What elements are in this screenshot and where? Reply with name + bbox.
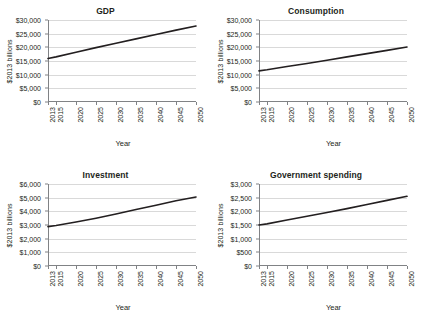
x-tick-mark xyxy=(267,102,268,105)
plot-area xyxy=(48,184,196,266)
chart-panel-gdp: GDP $2013 billions $30,000$25,000$20,000… xyxy=(0,0,211,164)
x-tick-mark xyxy=(156,266,157,269)
x-tick-label: 2050 xyxy=(408,271,415,287)
x-tick-label: 2050 xyxy=(408,107,415,123)
x-tick-mark xyxy=(307,266,308,269)
x-tick-mark xyxy=(387,266,388,269)
x-tick-mark xyxy=(116,102,117,105)
x-axis-label: Year xyxy=(45,303,201,312)
x-tick-mark xyxy=(347,266,348,269)
x-tick-label: 2030 xyxy=(117,271,124,287)
x-tick-label: 2045 xyxy=(177,271,184,287)
y-tick-label: $30,000 xyxy=(227,17,252,24)
series-polyline xyxy=(259,47,407,71)
data-series-line xyxy=(259,184,407,266)
chart-title: Investment xyxy=(0,170,211,180)
y-tick-label: $5,000 xyxy=(20,85,41,92)
y-tick-label: $0 xyxy=(33,99,41,106)
x-tick-label: 2040 xyxy=(157,271,164,287)
x-tick-label: 2035 xyxy=(137,271,144,287)
x-axis-ticks: 201320152020202520302035204020452050 xyxy=(48,266,196,302)
x-tick-label: 2040 xyxy=(368,271,375,287)
x-tick-label: 2040 xyxy=(368,107,375,123)
x-tick-label: 2015 xyxy=(268,107,275,123)
x-tick-label: 2025 xyxy=(308,271,315,287)
x-tick-label: 2045 xyxy=(177,107,184,123)
y-tick-label: $1,000 xyxy=(231,235,252,242)
y-tick-label: $5,000 xyxy=(20,194,41,201)
x-tick-label: 2035 xyxy=(348,271,355,287)
x-tick-mark xyxy=(327,266,328,269)
x-tick-mark xyxy=(48,102,49,105)
y-tick-label: $2,000 xyxy=(231,208,252,215)
x-tick-mark xyxy=(347,102,348,105)
x-tick-mark xyxy=(267,266,268,269)
plot-area xyxy=(259,184,407,266)
series-polyline xyxy=(48,197,196,227)
x-tick-mark xyxy=(367,102,368,105)
x-tick-mark xyxy=(196,102,197,105)
x-axis-label: Year xyxy=(45,139,201,148)
chart-title: GDP xyxy=(0,6,211,16)
y-tick-label: $0 xyxy=(244,99,252,106)
x-tick-label: 2020 xyxy=(77,271,84,287)
series-polyline xyxy=(48,26,196,59)
x-tick-mark xyxy=(176,266,177,269)
x-tick-mark xyxy=(259,102,260,105)
y-tick-label: $2,500 xyxy=(231,194,252,201)
x-axis-ticks: 201320152020202520302035204020452050 xyxy=(48,102,196,138)
chart-title: Consumption xyxy=(211,6,421,16)
x-tick-mark xyxy=(136,266,137,269)
x-tick-mark xyxy=(116,266,117,269)
y-tick-label: $6,000 xyxy=(20,181,41,188)
y-tick-label: $5,000 xyxy=(231,85,252,92)
x-tick-mark xyxy=(96,102,97,105)
data-series-line xyxy=(48,184,196,266)
x-tick-label: 2035 xyxy=(137,107,144,123)
y-tick-label: $500 xyxy=(236,249,252,256)
plot-area xyxy=(48,20,196,102)
y-tick-label: $25,000 xyxy=(227,30,252,37)
x-tick-label: 2015 xyxy=(57,107,64,123)
x-tick-label: 2013 xyxy=(49,107,56,123)
x-tick-mark xyxy=(259,266,260,269)
x-tick-mark xyxy=(76,266,77,269)
x-tick-mark xyxy=(287,102,288,105)
x-tick-label: 2013 xyxy=(49,271,56,287)
y-tick-label: $25,000 xyxy=(16,30,41,37)
x-tick-mark xyxy=(307,102,308,105)
x-tick-label: 2030 xyxy=(328,271,335,287)
x-tick-label: 2025 xyxy=(97,271,104,287)
x-tick-label: 2020 xyxy=(288,271,295,287)
x-tick-mark xyxy=(48,266,49,269)
y-axis-tick-labels: $6,000$5,000$4,000$3,000$2,000$1,000$0 xyxy=(0,184,45,266)
x-tick-label: 2030 xyxy=(117,107,124,123)
y-tick-label: $0 xyxy=(33,263,41,270)
y-tick-label: $10,000 xyxy=(227,71,252,78)
x-tick-label: 2025 xyxy=(308,107,315,123)
x-tick-mark xyxy=(327,102,328,105)
x-tick-label: 2050 xyxy=(197,107,204,123)
y-tick-label: $2,000 xyxy=(20,235,41,242)
x-tick-label: 2013 xyxy=(260,271,267,287)
series-polyline xyxy=(259,196,407,225)
x-tick-label: 2015 xyxy=(268,271,275,287)
x-tick-mark xyxy=(387,102,388,105)
x-tick-label: 2020 xyxy=(288,107,295,123)
x-tick-label: 2040 xyxy=(157,107,164,123)
chart-title: Government spending xyxy=(211,170,421,180)
y-axis-tick-labels: $30,000$25,000$20,000$15,000$10,000$5,00… xyxy=(211,20,256,102)
y-axis-tick-labels: $3,000$2,500$2,000$1,500$1,000$500$0 xyxy=(211,184,256,266)
plot-area xyxy=(259,20,407,102)
x-axis-label: Year xyxy=(256,139,411,148)
x-tick-label: 2050 xyxy=(197,271,204,287)
x-tick-mark xyxy=(176,102,177,105)
y-tick-label: $1,500 xyxy=(231,222,252,229)
x-tick-mark xyxy=(136,102,137,105)
x-tick-label: 2020 xyxy=(77,107,84,123)
x-tick-mark xyxy=(287,266,288,269)
x-tick-mark xyxy=(407,266,408,269)
x-tick-mark xyxy=(407,102,408,105)
y-tick-label: $4,000 xyxy=(20,208,41,215)
chart-panel-consumption: Consumption $2013 billions $30,000$25,00… xyxy=(211,0,421,164)
